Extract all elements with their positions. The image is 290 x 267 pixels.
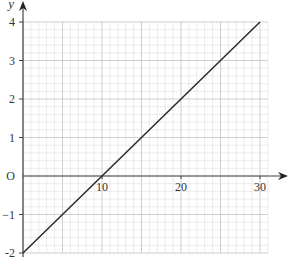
x-tick-label: 30 (254, 180, 266, 194)
y-tick-label: 1 (9, 131, 15, 145)
y-tick-label: −1 (2, 208, 15, 222)
x-tick-label: 10 (96, 180, 108, 194)
y-tick-label: 2 (9, 92, 15, 106)
y-axis-label: y (6, 0, 14, 11)
origin-label: O (6, 169, 15, 183)
y-tick-label: 3 (9, 54, 15, 68)
x-tick-label: 20 (175, 180, 187, 194)
line-chart: 102030-2−11234 O y (0, 0, 290, 267)
y-tick-label: 4 (9, 15, 15, 29)
y-tick-label: -2 (5, 246, 15, 260)
grid (23, 22, 268, 253)
